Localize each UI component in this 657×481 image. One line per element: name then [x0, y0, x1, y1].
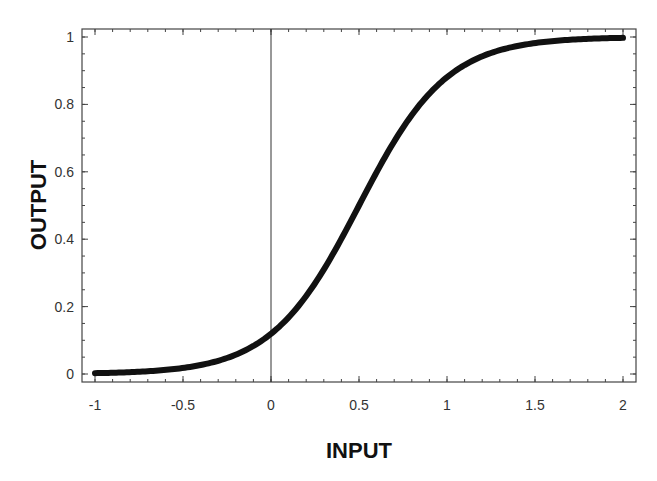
x-tick-label: 1.5 — [525, 397, 545, 413]
y-tick-label: 0.2 — [55, 299, 75, 315]
y-tick-label: 0.8 — [55, 96, 75, 112]
y-tick-labels: 00.20.40.60.81 — [55, 29, 75, 382]
y-tick-label: 0.6 — [55, 164, 75, 180]
x-tick-label: 2 — [619, 397, 627, 413]
x-tick-label: 0 — [267, 397, 275, 413]
sigmoid-chart: -1-0.500.511.52 00.20.40.60.81 INPUT OUT… — [0, 0, 657, 481]
x-axis-title: INPUT — [326, 438, 393, 463]
x-tick-label: -0.5 — [171, 397, 195, 413]
y-tick-label: 0.4 — [55, 231, 75, 247]
x-tick-label: -1 — [89, 397, 102, 413]
sigmoid-curve — [95, 38, 623, 373]
y-tick-label: 0 — [66, 366, 74, 382]
x-tick-labels: -1-0.500.511.52 — [89, 397, 627, 413]
x-tick-label: 1 — [443, 397, 451, 413]
y-tick-label: 1 — [66, 29, 74, 45]
y-axis-title: OUTPUT — [26, 159, 51, 250]
x-tick-label: 0.5 — [349, 397, 369, 413]
